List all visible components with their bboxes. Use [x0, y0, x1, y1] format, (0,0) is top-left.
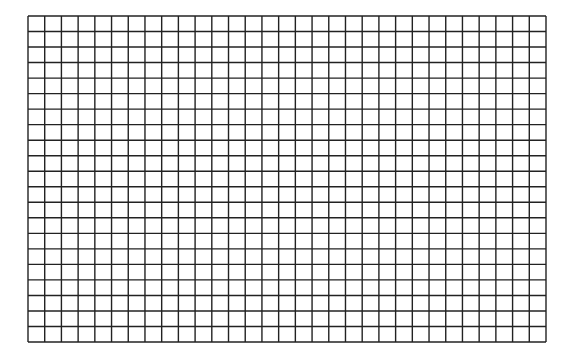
grid-paper	[0, 0, 570, 356]
grid-lines	[0, 0, 570, 356]
